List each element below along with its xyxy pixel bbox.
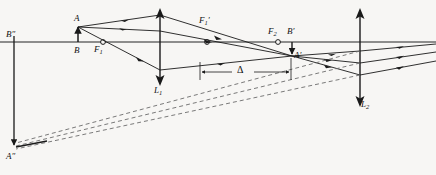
label-lens-one-subscript: 1 xyxy=(159,89,162,96)
refracted-ray-1-direction-arrow xyxy=(214,36,222,41)
label-image-top-A-prime-mark: ′ xyxy=(300,50,302,60)
final-virtual-image-group xyxy=(14,36,47,147)
label-focus-F1: F1 xyxy=(94,45,103,56)
ray-diagram-canvas xyxy=(0,0,436,175)
label-lens-one-L1: L1 xyxy=(154,86,162,97)
label-focus-F2: F2 xyxy=(268,27,277,38)
label-object-top-A: A xyxy=(74,14,80,23)
virtual-ray-extensions-group xyxy=(16,51,360,149)
label-focus-F1-prime: F1′ xyxy=(199,16,210,27)
optics-ray-diagram-figure: A B F1 F1′ F2 B′ A′ B″ A″ L1 L2 Δ xyxy=(0,0,436,175)
label-final-image-top-A-double-prime: A″ xyxy=(6,152,15,161)
emergent-rays-group xyxy=(360,44,436,75)
incident-ray-parallel-axis xyxy=(78,27,160,31)
label-focus-F1-prime-mark: ′ xyxy=(208,15,210,25)
label-lens-two-L2: L2 xyxy=(361,100,369,111)
label-image-top-A-prime: A′ xyxy=(294,51,301,60)
emergent-ray-arrow-b xyxy=(396,56,404,59)
label-final-image-top-mark: ″ xyxy=(12,151,16,161)
virtual-extension-upper xyxy=(16,51,360,143)
label-focus-F1-subscript: 1 xyxy=(100,48,103,55)
label-image-base-B-prime: B′ xyxy=(287,27,294,36)
label-final-image-base-B-double-prime: B″ xyxy=(6,30,15,39)
virtual-extension-middle xyxy=(16,63,360,146)
lens-one-group xyxy=(156,8,165,86)
incident-ray-through-focus xyxy=(78,27,160,70)
lens-two-group xyxy=(356,8,365,107)
emergent-ray-arrow-c xyxy=(396,66,404,70)
label-focus-F2-subscript: 2 xyxy=(274,30,277,37)
label-lens-two-subscript: 2 xyxy=(366,103,369,110)
ray-to-lens-two-arrow-a xyxy=(328,54,336,56)
label-delta-separation: Δ xyxy=(237,65,243,75)
refracted-ray-bottom-to-image xyxy=(160,56,292,70)
incident-ray-to-lens-top xyxy=(78,15,160,27)
label-object-base-B: B xyxy=(74,46,80,55)
label-image-base-B-prime-mark: ′ xyxy=(293,26,295,36)
focus-F2-marker xyxy=(276,40,281,45)
virtual-extension-lower xyxy=(16,75,360,149)
label-final-image-base-mark: ″ xyxy=(12,29,16,39)
